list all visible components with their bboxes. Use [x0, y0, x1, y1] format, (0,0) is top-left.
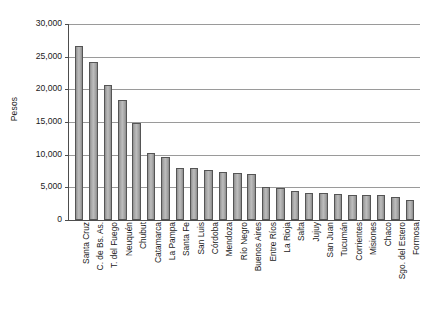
y-axis-tick-label: 30,000	[2, 19, 62, 28]
bar	[305, 193, 314, 220]
x-axis-label-slot: San Luis	[186, 222, 200, 318]
x-axis-label-slot: Formosa	[402, 222, 416, 318]
bar-slot	[316, 24, 330, 220]
bar-slot	[245, 24, 259, 220]
x-axis-label-slot: Chubut	[129, 222, 143, 318]
bar	[233, 173, 242, 220]
bar	[104, 85, 113, 220]
bar	[147, 153, 156, 220]
bar-slot	[86, 24, 100, 220]
x-axis-label-slot: Chaco	[373, 222, 387, 318]
bar	[348, 195, 357, 220]
x-axis-label-slot: Corrientes	[344, 222, 358, 318]
bar-chart: Pesos 30,00025,00020,00015,00010,0005,00…	[0, 0, 433, 320]
bar-series	[69, 24, 420, 220]
bar	[89, 62, 98, 220]
bar-slot	[273, 24, 287, 220]
x-axis-label-slot: C. de Bs. As.	[85, 222, 99, 318]
bar-slot	[201, 24, 215, 220]
y-axis-tick-label: 5,000	[2, 182, 62, 191]
bar	[247, 174, 256, 220]
x-axis-label-slot: Santa Cruz	[71, 222, 85, 318]
x-axis-label-slot: La Rioja	[272, 222, 286, 318]
x-axis-label-slot: Buenos Aires	[244, 222, 258, 318]
plot-area	[68, 24, 420, 221]
bar-slot	[331, 24, 345, 220]
bar-slot	[288, 24, 302, 220]
x-axis-label-slot: Catamarca	[143, 222, 157, 318]
x-axis-label-slot: Neuquén	[114, 222, 128, 318]
bar-slot	[173, 24, 187, 220]
x-axis-label-slot: Mendoza	[215, 222, 229, 318]
bar-slot	[216, 24, 230, 220]
x-axis-label-slot: Sgo. del Estero	[387, 222, 401, 318]
bar	[377, 195, 386, 220]
x-axis-label-slot: Misiones	[359, 222, 373, 318]
bar-slot	[374, 24, 388, 220]
x-axis-label-slot: Tucumán	[330, 222, 344, 318]
y-axis-tick-label: 0	[2, 215, 62, 224]
bar-slot	[101, 24, 115, 220]
x-axis-label-slot: Jujuy	[301, 222, 315, 318]
bar-slot	[230, 24, 244, 220]
y-axis-tick-labels: 30,00025,00020,00015,00010,0005,0000	[0, 24, 62, 220]
bar	[161, 157, 170, 220]
x-axis-label-slot: La Pampa	[157, 222, 171, 318]
bar	[75, 46, 84, 220]
bar	[334, 194, 343, 220]
y-axis-tick-label: 20,000	[2, 84, 62, 93]
bar-slot	[130, 24, 144, 220]
x-axis-label-slot: Entre Ríos	[258, 222, 272, 318]
y-axis-tick-label: 25,000	[2, 52, 62, 61]
x-axis-tick-label: Formosa	[412, 222, 421, 255]
y-axis-tick-mark	[65, 220, 69, 221]
bar	[190, 168, 199, 220]
bar	[219, 172, 228, 220]
x-axis-label-slot: Córdoba	[200, 222, 214, 318]
bar	[319, 193, 328, 220]
x-axis-label-slot: Salta	[287, 222, 301, 318]
bar	[262, 187, 271, 220]
bar-slot	[302, 24, 316, 220]
bar	[132, 123, 141, 220]
x-axis-label-slot: Santa Fe	[172, 222, 186, 318]
bar	[362, 195, 371, 220]
bar	[406, 200, 415, 220]
bar	[391, 197, 400, 220]
x-axis-label-slot: T. del Fuego	[100, 222, 114, 318]
bar-slot	[158, 24, 172, 220]
bar-slot	[345, 24, 359, 220]
bar-slot	[187, 24, 201, 220]
bar-slot	[403, 24, 417, 220]
bar-slot	[360, 24, 374, 220]
x-axis-label-slot: San Juan	[315, 222, 329, 318]
bar-slot	[115, 24, 129, 220]
bar	[276, 188, 285, 220]
y-axis-tick-label: 15,000	[2, 117, 62, 126]
bar-slot	[72, 24, 86, 220]
bar-slot	[388, 24, 402, 220]
x-axis-label-slot: Río Negro	[229, 222, 243, 318]
bar	[118, 100, 127, 220]
bar	[176, 168, 185, 220]
bar-slot	[144, 24, 158, 220]
bar	[291, 191, 300, 220]
bar	[204, 170, 213, 220]
bar-slot	[259, 24, 273, 220]
x-axis-tick-labels: Santa CruzC. de Bs. As.T. del FuegoNeuqu…	[68, 222, 419, 318]
y-axis-tick-label: 10,000	[2, 150, 62, 159]
